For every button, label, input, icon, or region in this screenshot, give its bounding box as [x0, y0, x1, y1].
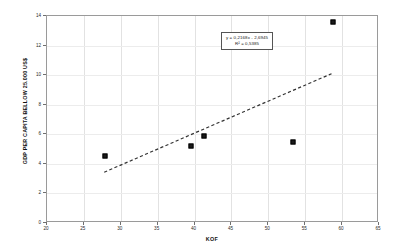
y-tick-mark: [43, 222, 46, 223]
gridline-vertical: [121, 16, 122, 221]
data-point: [290, 140, 295, 145]
y-tick-mark: [43, 163, 46, 164]
x-tick-label: 65: [375, 226, 380, 231]
plot-area: [46, 15, 378, 222]
x-tick-label: 60: [339, 226, 344, 231]
y-tick-mark: [43, 15, 46, 16]
x-tick-mark: [304, 222, 305, 225]
y-tick-label: 12: [30, 42, 41, 47]
y-tick-mark: [43, 45, 46, 46]
gridline-horizontal: [47, 46, 377, 47]
x-tick-mark: [341, 222, 342, 225]
x-tick-mark: [378, 222, 379, 225]
y-tick-label: 10: [30, 72, 41, 77]
trendline-equation-box: y = 0,2168x - 2,6945 R² = 0,5385: [221, 32, 273, 50]
y-tick-label: 2: [30, 190, 41, 195]
gridline-vertical: [84, 16, 85, 221]
y-tick-label: 6: [30, 131, 41, 136]
gridline-horizontal: [47, 164, 377, 165]
y-tick-label: 0: [30, 220, 41, 225]
x-tick-mark: [157, 222, 158, 225]
y-tick-label: 14: [30, 13, 41, 18]
data-point: [331, 19, 336, 24]
gridline-horizontal: [47, 75, 377, 76]
x-tick-label: 40: [191, 226, 196, 231]
x-tick-label: 25: [80, 226, 85, 231]
gridline-horizontal: [47, 105, 377, 106]
x-tick-mark: [46, 222, 47, 225]
data-point: [202, 133, 207, 138]
x-tick-label: 20: [43, 226, 48, 231]
y-tick-mark: [43, 74, 46, 75]
x-tick-mark: [120, 222, 121, 225]
gridline-vertical: [305, 16, 306, 221]
x-tick-label: 50: [265, 226, 270, 231]
y-tick-mark: [43, 104, 46, 105]
y-tick-mark: [43, 192, 46, 193]
x-tick-mark: [194, 222, 195, 225]
y-tick-mark: [43, 133, 46, 134]
x-tick-mark: [230, 222, 231, 225]
y-tick-label: 8: [30, 101, 41, 106]
y-tick-label: 4: [30, 160, 41, 165]
x-tick-label: 45: [228, 226, 233, 231]
gridline-horizontal: [47, 134, 377, 135]
x-tick-label: 30: [117, 226, 122, 231]
gridline-vertical: [342, 16, 343, 221]
data-point: [102, 154, 107, 159]
x-axis-title: KOF: [46, 236, 378, 242]
r-squared-text: R² = 0,5385: [226, 41, 268, 47]
trendline-equation-text: y = 0,2168x - 2,6945: [226, 35, 268, 41]
x-tick-label: 55: [302, 226, 307, 231]
data-point: [188, 144, 193, 149]
gridline-vertical: [195, 16, 196, 221]
trendline: [47, 16, 377, 221]
x-tick-mark: [267, 222, 268, 225]
gridline-vertical: [158, 16, 159, 221]
scatter-chart: 20253035404550556065 02468101214 y = 0,2…: [0, 0, 406, 252]
gridline-horizontal: [47, 193, 377, 194]
y-axis-title: GDP PER CAPITA BELLOW 25.000 US$: [22, 11, 28, 211]
x-tick-mark: [83, 222, 84, 225]
x-tick-label: 35: [154, 226, 159, 231]
